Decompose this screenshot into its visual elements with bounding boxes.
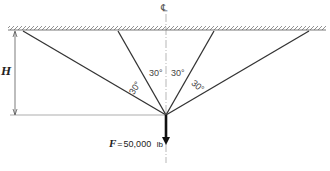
angle-label-2: 30° — [149, 68, 163, 78]
force-equals: = — [117, 139, 122, 149]
height-label: H — [1, 63, 11, 79]
member-1 — [23, 31, 166, 115]
force-arrow — [162, 115, 170, 145]
angle-label-3: 30° — [171, 68, 185, 78]
force-label: F=50,000 lb — [109, 137, 163, 149]
force-unit: lb — [157, 140, 163, 149]
truss-diagram — [0, 0, 330, 171]
force-symbol: F — [109, 137, 116, 149]
centerline-symbol: ℄ — [161, 2, 167, 13]
height-dimension — [13, 31, 17, 115]
member-4 — [166, 31, 309, 115]
ceiling-support — [8, 26, 326, 30]
force-value: 50,000 — [124, 139, 152, 149]
